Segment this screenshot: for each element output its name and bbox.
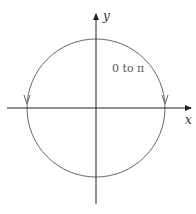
curve-label: 0 to π <box>112 62 144 75</box>
x-axis-label: x <box>185 113 192 127</box>
left-direction-arrow-icon <box>24 95 30 104</box>
parametric-circle-diagram: y x 0 to π <box>0 0 196 214</box>
y-axis-label: y <box>102 9 110 23</box>
right-direction-arrow-icon <box>162 95 168 104</box>
